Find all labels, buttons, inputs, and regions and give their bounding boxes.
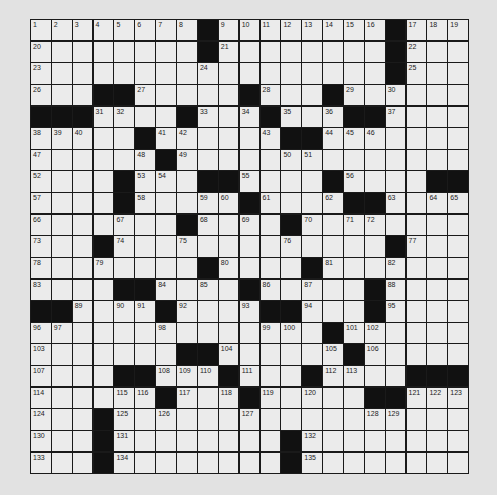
crossword-cell[interactable]: [94, 150, 114, 170]
crossword-cell[interactable]: [219, 63, 239, 83]
crossword-cell[interactable]: [73, 193, 93, 213]
crossword-cell[interactable]: [219, 431, 239, 451]
crossword-cell[interactable]: [386, 366, 406, 386]
crossword-cell[interactable]: [177, 431, 197, 451]
crossword-cell[interactable]: [94, 323, 114, 343]
crossword-cell[interactable]: [94, 128, 114, 148]
crossword-cell[interactable]: 12: [281, 20, 301, 40]
crossword-cell[interactable]: 18: [427, 20, 447, 40]
crossword-cell[interactable]: 49: [177, 150, 197, 170]
crossword-cell[interactable]: 95: [386, 301, 406, 321]
crossword-cell[interactable]: 128: [365, 409, 385, 429]
crossword-cell[interactable]: 41: [156, 128, 176, 148]
crossword-cell[interactable]: 99: [261, 323, 281, 343]
crossword-cell[interactable]: 102: [365, 323, 385, 343]
crossword-cell[interactable]: [94, 215, 114, 235]
crossword-cell[interactable]: [198, 85, 218, 105]
crossword-cell[interactable]: 26: [31, 85, 51, 105]
crossword-cell[interactable]: [448, 323, 468, 343]
crossword-cell[interactable]: 53: [135, 171, 155, 191]
crossword-cell[interactable]: [261, 42, 281, 62]
crossword-cell[interactable]: 4: [94, 20, 114, 40]
crossword-cell[interactable]: [365, 366, 385, 386]
crossword-cell[interactable]: 63: [386, 193, 406, 213]
crossword-cell[interactable]: [407, 215, 427, 235]
crossword-cell[interactable]: 121: [407, 388, 427, 408]
crossword-cell[interactable]: [240, 42, 260, 62]
crossword-cell[interactable]: [407, 301, 427, 321]
crossword-cell[interactable]: 108: [156, 366, 176, 386]
crossword-cell[interactable]: 84: [156, 280, 176, 300]
crossword-cell[interactable]: 66: [31, 215, 51, 235]
crossword-cell[interactable]: [386, 344, 406, 364]
crossword-cell[interactable]: [448, 215, 468, 235]
crossword-cell[interactable]: [240, 431, 260, 451]
crossword-cell[interactable]: [427, 128, 447, 148]
crossword-cell[interactable]: [323, 409, 343, 429]
crossword-cell[interactable]: 119: [261, 388, 281, 408]
crossword-cell[interactable]: [73, 42, 93, 62]
crossword-cell[interactable]: [427, 63, 447, 83]
crossword-cell[interactable]: 117: [177, 388, 197, 408]
crossword-cell[interactable]: [427, 215, 447, 235]
crossword-cell[interactable]: 46: [365, 128, 385, 148]
crossword-cell[interactable]: [386, 128, 406, 148]
crossword-cell[interactable]: 116: [135, 388, 155, 408]
crossword-cell[interactable]: 48: [135, 150, 155, 170]
crossword-cell[interactable]: 8: [177, 20, 197, 40]
crossword-cell[interactable]: [407, 323, 427, 343]
crossword-cell[interactable]: [114, 150, 134, 170]
crossword-cell[interactable]: [261, 150, 281, 170]
crossword-cell[interactable]: 76: [281, 236, 301, 256]
crossword-cell[interactable]: [344, 258, 364, 278]
crossword-cell[interactable]: 11: [261, 20, 281, 40]
crossword-cell[interactable]: [114, 42, 134, 62]
crossword-cell[interactable]: [261, 344, 281, 364]
crossword-cell[interactable]: [198, 388, 218, 408]
crossword-cell[interactable]: [114, 323, 134, 343]
crossword-cell[interactable]: [94, 42, 114, 62]
crossword-cell[interactable]: [73, 366, 93, 386]
crossword-cell[interactable]: [281, 344, 301, 364]
crossword-cell[interactable]: [427, 409, 447, 429]
crossword-cell[interactable]: [448, 128, 468, 148]
crossword-cell[interactable]: 85: [198, 280, 218, 300]
crossword-cell[interactable]: 9: [219, 20, 239, 40]
crossword-cell[interactable]: [52, 193, 72, 213]
crossword-cell[interactable]: [52, 63, 72, 83]
crossword-cell[interactable]: 29: [344, 85, 364, 105]
crossword-cell[interactable]: [261, 171, 281, 191]
crossword-cell[interactable]: [73, 388, 93, 408]
crossword-cell[interactable]: [323, 301, 343, 321]
crossword-cell[interactable]: 126: [156, 409, 176, 429]
crossword-cell[interactable]: [302, 63, 322, 83]
crossword-cell[interactable]: [323, 236, 343, 256]
crossword-cell[interactable]: 103: [31, 344, 51, 364]
crossword-cell[interactable]: [156, 344, 176, 364]
crossword-cell[interactable]: [281, 258, 301, 278]
crossword-cell[interactable]: [261, 431, 281, 451]
crossword-cell[interactable]: 93: [240, 301, 260, 321]
crossword-cell[interactable]: [52, 215, 72, 235]
crossword-cell[interactable]: 45: [344, 128, 364, 148]
crossword-cell[interactable]: [94, 171, 114, 191]
crossword-cell[interactable]: [156, 453, 176, 473]
crossword-cell[interactable]: [281, 171, 301, 191]
crossword-cell[interactable]: 130: [31, 431, 51, 451]
crossword-cell[interactable]: [302, 409, 322, 429]
crossword-cell[interactable]: [386, 323, 406, 343]
crossword-cell[interactable]: [114, 63, 134, 83]
crossword-cell[interactable]: 55: [240, 171, 260, 191]
crossword-cell[interactable]: [177, 85, 197, 105]
crossword-cell[interactable]: [427, 431, 447, 451]
crossword-cell[interactable]: [73, 258, 93, 278]
crossword-cell[interactable]: [386, 215, 406, 235]
crossword-cell[interactable]: [302, 42, 322, 62]
crossword-cell[interactable]: [73, 150, 93, 170]
crossword-cell[interactable]: [427, 42, 447, 62]
crossword-cell[interactable]: [240, 323, 260, 343]
crossword-cell[interactable]: 39: [52, 128, 72, 148]
crossword-cell[interactable]: [135, 344, 155, 364]
crossword-cell[interactable]: 88: [386, 280, 406, 300]
crossword-cell[interactable]: [73, 215, 93, 235]
